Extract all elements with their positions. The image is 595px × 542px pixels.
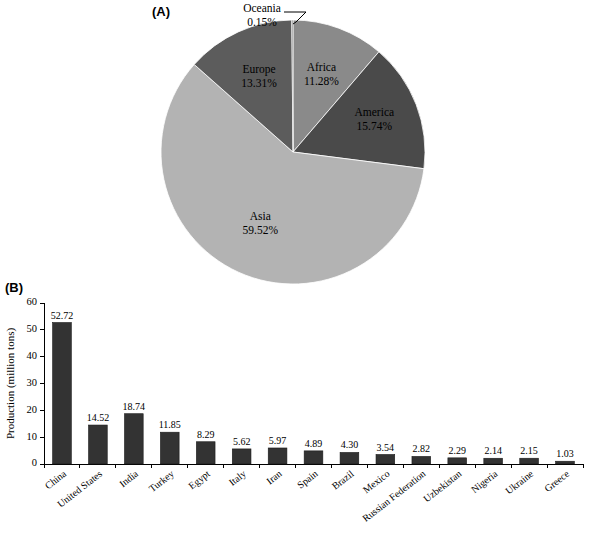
bar-greece[interactable]: 1.03 — [556, 448, 575, 464]
pie-label-name-europe: Europe — [242, 63, 275, 76]
bar-value-label: 5.62 — [233, 436, 251, 447]
bar-value-label: 2.82 — [413, 443, 431, 454]
bar-russian-federation[interactable]: 2.82 — [412, 443, 431, 464]
x-category-label: Turkey — [147, 468, 176, 494]
x-category-label: India — [117, 468, 140, 490]
bar-united-states[interactable]: 14.52 — [87, 412, 110, 464]
x-category-label: Mexico — [361, 468, 392, 495]
bar-value-label: 2.15 — [520, 445, 538, 456]
pie-label-value-europe: 13.31% — [241, 77, 277, 89]
bar-value-label: 1.03 — [556, 448, 574, 459]
bar-italy[interactable]: 5.62 — [232, 436, 251, 464]
y-tick-label: 10 — [27, 431, 38, 442]
bar-mexico[interactable]: 3.54 — [376, 442, 395, 464]
panel-a-pie-chart: (A) Africa11.28%America15.74%Asia59.52%E… — [0, 0, 595, 285]
bar-value-label: 4.30 — [341, 439, 359, 450]
pie-chart-svg: Africa11.28%America15.74%Asia59.52%Europ… — [0, 0, 595, 285]
bar-spain[interactable]: 4.89 — [304, 438, 323, 464]
x-category-label: Ukraine — [503, 468, 536, 497]
x-category-label: Russian Federation — [360, 468, 427, 524]
bar-value-label: 5.97 — [269, 435, 287, 446]
x-category-label: Greece — [542, 468, 572, 494]
bar-india[interactable]: 18.74 — [123, 401, 146, 464]
bar-china[interactable]: 52.72 — [51, 310, 74, 464]
bar-iran[interactable]: 5.97 — [268, 435, 287, 464]
x-category-label: Nigeria — [469, 468, 500, 495]
bar-value-label: 4.89 — [305, 438, 323, 449]
panel-b-bar-chart: (B) 0102030405060Production (million ton… — [0, 276, 595, 542]
bar-value-label: 18.74 — [123, 401, 146, 412]
y-axis: 0102030405060 — [27, 296, 45, 468]
x-category-label: Brazil — [330, 468, 356, 492]
pie-label-name-america: America — [355, 106, 395, 118]
pie-label-name-oceania: Oceania — [243, 2, 281, 14]
x-category-label: Iran — [264, 468, 283, 487]
pie-label-value-africa: 11.28% — [304, 75, 339, 87]
y-tick-label: 20 — [27, 404, 38, 415]
bar-value-label: 2.14 — [484, 445, 502, 456]
pie-label-value-america: 15.74% — [357, 120, 393, 132]
bar-brazil[interactable]: 4.30 — [340, 439, 359, 464]
bar-value-label: 14.52 — [87, 412, 110, 423]
bar-turkey[interactable]: 11.85 — [159, 419, 181, 464]
x-axis — [44, 464, 583, 468]
bar-uzbekistan[interactable]: 2.29 — [448, 445, 467, 464]
pie-label-value-oceania: 0.15% — [247, 16, 277, 28]
x-category-label: Uzbekistan — [421, 468, 463, 504]
bar-value-label: 52.72 — [51, 310, 74, 321]
bar-nigeria[interactable]: 2.14 — [484, 445, 503, 464]
bar-chart-svg: 0102030405060Production (million tons)52… — [0, 276, 595, 542]
y-tick-label: 50 — [27, 323, 38, 334]
bar-ukraine[interactable]: 2.15 — [520, 445, 539, 464]
bar-value-label: 3.54 — [377, 442, 395, 453]
x-category-label: Italy — [227, 468, 248, 488]
y-tick-label: 0 — [32, 457, 37, 468]
y-axis-title: Production (million tons) — [4, 328, 17, 440]
y-tick-label: 40 — [27, 350, 38, 361]
x-category-label: Spain — [295, 468, 320, 491]
y-tick-label: 60 — [27, 296, 38, 307]
x-category-label: Egypt — [186, 468, 212, 492]
bar-value-label: 2.29 — [448, 445, 466, 456]
bar-egypt[interactable]: 8.29 — [196, 429, 215, 464]
figure-root: (A) Africa11.28%America15.74%Asia59.52%E… — [0, 0, 595, 542]
pie-label-value-asia: 59.52% — [243, 224, 279, 236]
bar-value-label: 11.85 — [159, 419, 181, 430]
pie-label-name-africa: Africa — [307, 61, 336, 73]
x-category-label: China — [43, 468, 69, 492]
pie-label-name-asia: Asia — [250, 210, 271, 222]
bar-value-label: 8.29 — [197, 429, 215, 440]
y-tick-label: 30 — [27, 377, 38, 388]
